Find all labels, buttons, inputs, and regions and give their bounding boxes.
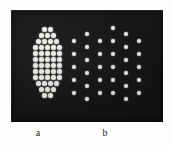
dot xyxy=(111,91,116,96)
dot xyxy=(111,78,116,83)
dot xyxy=(72,78,77,83)
dot xyxy=(137,78,142,83)
dot-cluster-b xyxy=(11,10,163,122)
dot xyxy=(111,39,116,44)
dot xyxy=(111,52,116,57)
dot xyxy=(137,91,142,96)
dot xyxy=(137,39,142,44)
dot xyxy=(124,45,129,50)
micrograph-panel xyxy=(11,10,163,122)
dot xyxy=(85,71,90,76)
dot xyxy=(85,97,90,102)
dot xyxy=(98,78,103,83)
dot xyxy=(72,39,77,44)
dot xyxy=(124,58,129,63)
dot xyxy=(137,65,142,70)
dot xyxy=(85,32,90,37)
dot xyxy=(124,97,129,102)
dot xyxy=(85,84,90,89)
dot xyxy=(111,65,116,70)
dot xyxy=(111,26,116,31)
figure-labels: a b xyxy=(0,126,173,146)
dot xyxy=(72,52,77,57)
dot xyxy=(124,84,129,89)
dot xyxy=(72,65,77,70)
dot xyxy=(85,45,90,50)
dot xyxy=(98,52,103,57)
panel-label-a: a xyxy=(31,126,45,140)
dot xyxy=(98,91,103,96)
dot xyxy=(137,52,142,57)
dot xyxy=(124,32,129,37)
dot xyxy=(85,58,90,63)
panel-label-b: b xyxy=(98,126,112,140)
dot xyxy=(98,65,103,70)
dot xyxy=(98,39,103,44)
dot xyxy=(124,71,129,76)
dot xyxy=(72,91,77,96)
figure-root: a b xyxy=(0,0,173,146)
